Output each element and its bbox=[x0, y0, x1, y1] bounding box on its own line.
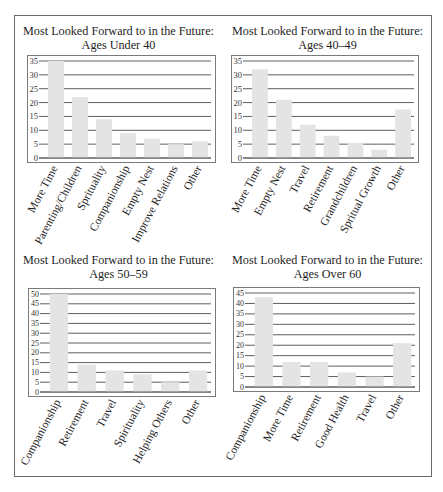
bar bbox=[276, 100, 292, 158]
bar bbox=[252, 69, 268, 158]
bar-chart-50-59: 05101520253035404550CompanionshipRetirem… bbox=[29, 289, 215, 396]
bar-chart-40-49: 05101520253035More TimeEmpty NestTravelR… bbox=[232, 56, 418, 162]
y-tick-label: 0 bbox=[240, 383, 244, 392]
y-tick-label: 10 bbox=[236, 362, 244, 371]
bar-chart-under-40: 05101520253035More TimeParenting/Childre… bbox=[28, 56, 215, 162]
y-tick-label: 5 bbox=[238, 139, 242, 149]
y-tick-label: 20 bbox=[31, 348, 39, 357]
plot-area-over-60: 051015202530354045CompanionshipMore Time… bbox=[233, 287, 420, 392]
y-tick-label: 0 bbox=[34, 153, 38, 163]
y-tick-label: 20 bbox=[234, 98, 243, 108]
bar bbox=[96, 119, 112, 158]
y-tick-label: 35 bbox=[30, 56, 39, 66]
y-tick-label: 10 bbox=[234, 125, 243, 135]
chart-title-line-2: Ages 50–59 bbox=[14, 267, 223, 281]
y-tick-label: 50 bbox=[31, 290, 39, 299]
bar bbox=[347, 143, 363, 158]
y-tick-label: 15 bbox=[30, 111, 39, 121]
y-tick-label: 30 bbox=[31, 329, 39, 338]
y-gridline: 45 bbox=[236, 289, 415, 298]
y-tick-label: 40 bbox=[31, 309, 39, 318]
bar bbox=[168, 144, 184, 158]
plot-area-under-40: 05101520253035More TimeParenting/Childre… bbox=[27, 55, 216, 163]
chart-title-line-1: Most Looked Forward to in the Future: bbox=[223, 24, 432, 38]
chart-title: Most Looked Forward to in the Future: Ag… bbox=[223, 24, 432, 52]
y-tick-label: 35 bbox=[234, 56, 243, 66]
y-tick-label: 25 bbox=[234, 84, 243, 94]
y-tick-label: 5 bbox=[34, 139, 38, 149]
bar bbox=[255, 297, 273, 387]
chart-title: Most Looked Forward to in the Future: Ag… bbox=[14, 24, 223, 52]
y-tick-label: 15 bbox=[31, 358, 39, 367]
y-tick-label: 15 bbox=[236, 351, 244, 360]
bar bbox=[144, 139, 160, 158]
bar bbox=[365, 377, 383, 387]
y-tick-label: 45 bbox=[31, 299, 39, 308]
chart-title-line-1: Most Looked Forward to in the Future: bbox=[14, 24, 223, 38]
bar bbox=[133, 374, 151, 392]
y-tick-label: 10 bbox=[31, 368, 39, 377]
y-tick-label: 5 bbox=[35, 378, 39, 387]
y-tick-label: 10 bbox=[30, 125, 39, 135]
bar bbox=[395, 110, 411, 159]
bar bbox=[310, 362, 328, 387]
bar bbox=[393, 343, 411, 387]
bar bbox=[282, 362, 300, 387]
y-tick-label: 45 bbox=[236, 289, 244, 298]
bar bbox=[161, 382, 179, 392]
bar bbox=[72, 97, 88, 158]
y-tick-label: 35 bbox=[236, 309, 244, 318]
bar bbox=[105, 370, 123, 392]
y-tick-label: 30 bbox=[234, 70, 243, 80]
chart-title-line-1: Most Looked Forward to in the Future: bbox=[223, 253, 432, 267]
chart-title-line-2: Ages Over 60 bbox=[223, 267, 432, 281]
chart-title: Most Looked Forward to in the Future: Ag… bbox=[223, 253, 432, 281]
bar bbox=[78, 365, 96, 392]
chart-title-line-2: Ages 40–49 bbox=[223, 38, 432, 52]
bar bbox=[324, 136, 340, 158]
bar bbox=[300, 125, 316, 158]
y-tick-label: 25 bbox=[31, 339, 39, 348]
bar bbox=[338, 372, 356, 387]
y-tick-label: 20 bbox=[236, 341, 244, 350]
y-gridline: 35 bbox=[234, 56, 415, 66]
chart-title-line-2: Ages Under 40 bbox=[14, 38, 223, 52]
y-tick-label: 0 bbox=[238, 153, 242, 163]
y-tick-label: 35 bbox=[31, 319, 39, 328]
bar-chart-over-60: 051015202530354045CompanionshipMore Time… bbox=[234, 288, 419, 391]
bar bbox=[371, 150, 387, 158]
y-tick-label: 15 bbox=[234, 111, 243, 121]
y-tick-label: 30 bbox=[236, 320, 244, 329]
y-tick-label: 40 bbox=[236, 299, 244, 308]
y-tick-label: 30 bbox=[30, 70, 39, 80]
bar bbox=[189, 370, 207, 392]
bar bbox=[120, 133, 136, 158]
chart-title-line-1: Most Looked Forward to in the Future: bbox=[14, 253, 223, 267]
plot-area-50-59: 05101520253035404550CompanionshipRetirem… bbox=[28, 288, 216, 397]
plot-area-40-49: 05101520253035More TimeEmpty NestTravelR… bbox=[231, 55, 419, 163]
y-tick-label: 25 bbox=[236, 330, 244, 339]
bar bbox=[48, 61, 64, 158]
y-tick-label: 5 bbox=[240, 372, 244, 381]
y-tick-label: 0 bbox=[35, 388, 39, 397]
y-tick-label: 25 bbox=[30, 84, 39, 94]
chart-title: Most Looked Forward to in the Future: Ag… bbox=[14, 253, 223, 281]
bar bbox=[192, 141, 208, 158]
y-tick-label: 20 bbox=[30, 98, 39, 108]
bar bbox=[50, 294, 68, 392]
